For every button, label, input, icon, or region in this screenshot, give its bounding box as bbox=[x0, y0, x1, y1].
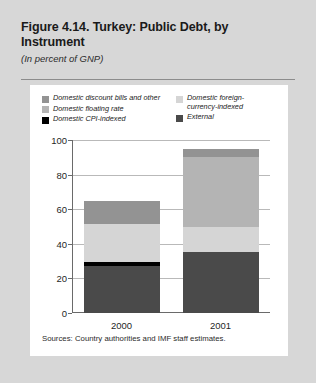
legend-swatch-domestic-discount-bills bbox=[42, 96, 49, 103]
y-tick-label: 60 bbox=[56, 204, 67, 215]
figure-header: Figure 4.14. Turkey: Public Debt, by Ins… bbox=[21, 20, 295, 64]
legend-label-domestic-discount-bills: Domestic discount bills and other bbox=[53, 94, 160, 103]
source-note: Sources: Country authorities and IMF sta… bbox=[42, 334, 280, 344]
y-tick-label: 0 bbox=[62, 308, 67, 319]
bar-segment bbox=[183, 157, 259, 226]
chart-card: Domestic discount bills and other Domest… bbox=[30, 85, 288, 356]
legend-swatch-domestic-floating-rate bbox=[42, 106, 49, 113]
plot-area: 020406080100 20002001 bbox=[72, 140, 270, 313]
chart-legend: Domestic discount bills and other Domest… bbox=[42, 94, 282, 126]
legend-item: Domestic foreign- currency-indexed bbox=[176, 94, 282, 111]
legend-item: Domestic floating rate bbox=[42, 105, 176, 114]
x-tick-label-2000: 2000 bbox=[111, 320, 132, 331]
bar-segment bbox=[183, 252, 259, 313]
gridline bbox=[72, 140, 270, 141]
y-tick-label: 40 bbox=[56, 238, 67, 249]
bar-segment bbox=[84, 224, 160, 262]
legend-swatch-domestic-cpi-indexed bbox=[42, 117, 49, 124]
bar-segment bbox=[84, 266, 160, 313]
figure-subtitle: (In percent of GNP) bbox=[21, 53, 295, 64]
bar-segment bbox=[183, 149, 259, 158]
legend-label-domestic-floating-rate: Domestic floating rate bbox=[53, 105, 124, 114]
y-tick-label: 80 bbox=[56, 169, 67, 180]
legend-column-left: Domestic discount bills and other Domest… bbox=[42, 94, 176, 126]
figure-title: Figure 4.14. Turkey: Public Debt, by Ins… bbox=[21, 20, 295, 50]
bar-segment bbox=[84, 201, 160, 224]
bar-2000 bbox=[84, 201, 160, 313]
legend-swatch-domestic-fx-indexed bbox=[176, 96, 183, 103]
legend-label-external: External bbox=[187, 113, 214, 122]
figure-container: Figure 4.14. Turkey: Public Debt, by Ins… bbox=[0, 0, 316, 383]
bar-segment bbox=[183, 227, 259, 253]
legend-label-domestic-fx-indexed: Domestic foreign- currency-indexed bbox=[187, 94, 244, 111]
legend-item: Domestic discount bills and other bbox=[42, 94, 176, 103]
x-tick-label-2001: 2001 bbox=[210, 320, 231, 331]
legend-swatch-external bbox=[176, 115, 183, 122]
bar-2001 bbox=[183, 149, 259, 313]
y-tick-label: 20 bbox=[56, 273, 67, 284]
legend-item: Domestic CPI-indexed bbox=[42, 115, 176, 124]
y-axis-line bbox=[72, 140, 73, 313]
y-tick-mark bbox=[68, 313, 72, 314]
legend-column-right: Domestic foreign- currency-indexed Exter… bbox=[176, 94, 282, 126]
title-divider bbox=[21, 79, 295, 80]
y-tick-label: 100 bbox=[51, 135, 67, 146]
legend-item: External bbox=[176, 113, 282, 122]
legend-label-domestic-cpi-indexed: Domestic CPI-indexed bbox=[53, 115, 126, 124]
